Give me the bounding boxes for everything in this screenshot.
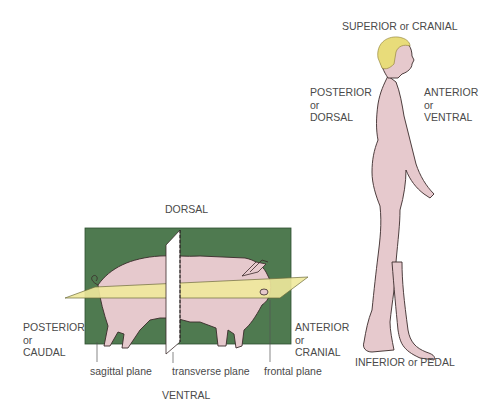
label-human-posterior-line3: DORSAL — [310, 111, 372, 124]
label-frontal-plane: frontal plane — [264, 365, 322, 378]
label-human-anterior-line2: or — [424, 99, 478, 112]
label-superior-cranial: SUPERIOR or CRANIAL — [342, 20, 458, 33]
label-anterior-line3: CRANIAL — [295, 346, 349, 359]
transverse-plane — [166, 230, 180, 354]
label-posterior-line2: or — [23, 334, 85, 347]
label-posterior-line3: CAUDAL — [23, 346, 85, 359]
label-dorsal: DORSAL — [165, 203, 208, 216]
label-human-anterior-line3: VENTRAL — [424, 111, 478, 124]
label-anterior-line1: ANTERIOR — [295, 321, 349, 334]
label-sagittal-plane: sagittal plane — [90, 365, 152, 378]
label-posterior-caudal: POSTERIOR or CAUDAL — [23, 321, 85, 359]
label-anterior-line2: or — [295, 334, 349, 347]
pig-diagram — [65, 228, 308, 363]
label-human-anterior-ventral: ANTERIOR or VENTRAL — [424, 86, 478, 124]
label-posterior-line1: POSTERIOR — [23, 321, 85, 334]
label-human-posterior-dorsal: POSTERIOR or DORSAL — [310, 86, 372, 124]
label-human-anterior-line1: ANTERIOR — [424, 86, 478, 99]
label-human-posterior-line2: or — [310, 99, 372, 112]
label-anterior-cranial: ANTERIOR or CRANIAL — [295, 321, 349, 359]
human-second-leg — [392, 262, 435, 360]
pig-snout — [260, 289, 268, 295]
label-inferior-pedal: INFERIOR or PEDAL — [355, 356, 455, 369]
label-ventral: VENTRAL — [162, 389, 210, 402]
label-human-posterior-line1: POSTERIOR — [310, 86, 372, 99]
label-transverse-plane: transverse plane — [172, 365, 250, 378]
